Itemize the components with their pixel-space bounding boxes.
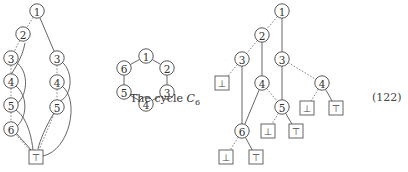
right-edge-R4b-Rb2	[311, 89, 319, 102]
vertex-label: 1	[279, 6, 286, 18]
equation-number: (122)	[372, 91, 402, 104]
terminal-node-Rb3: ⊥	[261, 124, 275, 138]
vertex-label: 5	[8, 100, 15, 112]
terminal-node-Rt2: ⊤	[329, 101, 343, 115]
right-diagram: 1233⊥445⊥⊤6⊥⊤⊥⊤	[215, 4, 343, 164]
caption-subscript: 6	[195, 98, 200, 107]
vertex-label: 3	[239, 54, 246, 66]
vertex-label: 6	[8, 124, 15, 136]
left-edge-L5b-LT	[39, 114, 55, 151]
right-edge-R1-R2	[267, 17, 278, 30]
left-edge-L2-L3a	[14, 40, 20, 51]
vertex-label: 4	[8, 76, 15, 88]
diagram-canvas: 123456345⊤1234561233⊥445⊥⊤6⊥⊤⊥⊤	[0, 0, 408, 172]
terminal-label: ⊤	[252, 152, 260, 163]
left-curve-edge	[16, 133, 31, 150]
terminal-label: ⊤	[332, 103, 340, 114]
right-edge-R5-Rt3	[286, 113, 293, 125]
vertex-label: 5	[54, 102, 61, 114]
vertex-label: 2	[164, 63, 171, 75]
middle-edge-C1-C2	[152, 60, 160, 65]
vertex-label: 4	[319, 78, 326, 90]
vertex-node-L5a: 5	[4, 98, 18, 112]
vertex-label: 5	[121, 87, 128, 99]
vertex-node-C6: 6	[117, 61, 131, 75]
right-edge-R4a-R6	[245, 90, 259, 125]
vertex-label: 2	[259, 30, 266, 42]
cycle-caption: The cycle C6	[130, 92, 200, 107]
right-edge-R6-Rt4	[245, 137, 252, 150]
vertex-node-L2: 2	[16, 27, 30, 41]
vertex-node-R6: 6	[235, 124, 249, 138]
vertex-node-L6: 6	[4, 122, 18, 136]
vertex-label: 4	[259, 78, 266, 90]
vertex-node-L1: 1	[30, 4, 44, 18]
vertex-node-R4a: 4	[255, 76, 269, 90]
vertex-node-L3a: 3	[4, 51, 18, 65]
right-edge-R4b-Rt2	[326, 89, 333, 102]
vertex-node-R3a: 3	[235, 52, 249, 66]
vertex-node-L5b: 5	[50, 100, 64, 114]
vertex-label: 6	[239, 126, 246, 138]
vertex-node-R4b: 4	[315, 76, 329, 90]
terminal-label: ⊥	[222, 152, 230, 163]
right-edge-R2-R3a	[247, 41, 258, 54]
vertex-node-R5: 5	[275, 100, 289, 114]
vertex-label: 3	[8, 53, 15, 65]
vertex-label: 4	[54, 77, 61, 89]
vertex-label: 1	[34, 6, 41, 18]
left-edge-L1-L3b	[40, 18, 54, 52]
vertex-node-L4b: 4	[50, 75, 64, 89]
right-edge-R4a-R5	[267, 89, 278, 102]
vertex-node-L3b: 3	[50, 51, 64, 65]
left-edge-L6-LT	[16, 134, 32, 151]
left-diagram: 123456345⊤	[4, 4, 71, 164]
terminal-label: ⊤	[292, 126, 300, 137]
vertex-node-R1: 1	[275, 4, 289, 18]
vertex-label: 6	[121, 63, 128, 75]
caption-prefix: The cycle	[130, 92, 187, 105]
vertex-label: 3	[279, 54, 286, 66]
terminal-node-LT: ⊤	[29, 150, 43, 164]
terminal-node-Rt3: ⊤	[289, 124, 303, 138]
middle-edge-C6-C1	[130, 59, 139, 64]
vertex-node-R2: 2	[255, 28, 269, 42]
right-edge-R3b-R4b	[288, 63, 316, 80]
vertex-node-L4a: 4	[4, 74, 18, 88]
vertex-node-C2: 2	[160, 61, 174, 75]
terminal-node-Rb2: ⊥	[300, 101, 314, 115]
left-curve-edge	[38, 113, 54, 149]
terminal-node-Rb1: ⊥	[215, 76, 229, 90]
vertex-label: 5	[279, 102, 286, 114]
terminal-label: ⊥	[218, 78, 226, 89]
terminal-node-Rb4: ⊥	[219, 150, 233, 164]
vertex-node-R3b: 3	[275, 52, 289, 66]
terminal-label: ⊥	[264, 126, 272, 137]
terminal-label: ⊥	[303, 103, 311, 114]
vertex-label: 3	[54, 53, 61, 65]
caption-symbol: C	[187, 92, 195, 105]
vertex-node-C1: 1	[139, 49, 153, 63]
right-edge-R6-Rb4	[230, 137, 239, 151]
vertex-label: 2	[20, 29, 27, 41]
terminal-label: ⊤	[32, 152, 40, 163]
terminal-node-Rt4: ⊤	[249, 150, 263, 164]
left-edge-L1-L2	[27, 17, 34, 28]
vertex-label: 1	[143, 51, 150, 63]
right-edge-R5-Rb3	[272, 113, 279, 125]
